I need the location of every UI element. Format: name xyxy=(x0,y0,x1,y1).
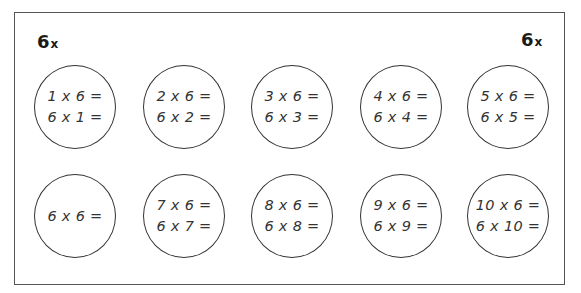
equation-line: 6 x 10 = xyxy=(476,216,541,237)
equation-line: 10 x 6 = xyxy=(476,195,541,216)
equation-line: 6 x 3 = xyxy=(264,107,319,128)
equation-circle-9: 9 x 6 = 6 x 9 = xyxy=(360,174,442,258)
equation-line: 6 x 1 = xyxy=(47,107,102,128)
equation-line: 1 x 6 = xyxy=(47,86,102,107)
label-number: 6 xyxy=(521,29,534,50)
multiply-symbol: x xyxy=(51,37,59,51)
equation-line: 2 x 6 = xyxy=(156,86,211,107)
equation-circle-10: 10 x 6 = 6 x 10 = xyxy=(467,174,549,258)
equation-line: 6 x 8 = xyxy=(264,216,319,237)
equation-line: 9 x 6 = xyxy=(373,195,428,216)
equation-line: 3 x 6 = xyxy=(264,86,319,107)
equation-line: 8 x 6 = xyxy=(264,195,319,216)
label-number: 6 xyxy=(37,31,50,52)
equation-circle-1: 1 x 6 = 6 x 1 = xyxy=(34,65,116,149)
equation-circle-4: 4 x 6 = 6 x 4 = xyxy=(360,65,442,149)
equation-circle-7: 7 x 6 = 6 x 7 = xyxy=(143,174,225,258)
times-table-label-left: 6x xyxy=(37,33,58,51)
equation-line: 6 x 5 = xyxy=(480,107,535,128)
equation-circle-5: 5 x 6 = 6 x 5 = xyxy=(467,65,549,149)
equation-line: 6 x 7 = xyxy=(156,216,211,237)
times-table-label-right: 6x xyxy=(521,31,542,49)
equation-line: 5 x 6 = xyxy=(480,86,535,107)
equation-line: 6 x 6 = xyxy=(47,206,102,227)
equation-line: 6 x 2 = xyxy=(156,107,211,128)
equation-line: 4 x 6 = xyxy=(373,86,428,107)
equation-line: 7 x 6 = xyxy=(156,195,211,216)
equation-circle-6: 6 x 6 = xyxy=(34,174,116,258)
equation-circle-3: 3 x 6 = 6 x 3 = xyxy=(251,65,333,149)
equation-circle-2: 2 x 6 = 6 x 2 = xyxy=(143,65,225,149)
equation-line: 6 x 4 = xyxy=(373,107,428,128)
equation-circle-8: 8 x 6 = 6 x 8 = xyxy=(251,174,333,258)
equation-line: 6 x 9 = xyxy=(373,216,428,237)
multiply-symbol: x xyxy=(535,35,543,49)
